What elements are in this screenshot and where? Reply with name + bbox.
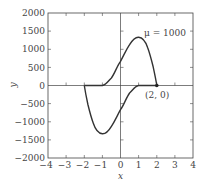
svg-text:−3: −3 — [58, 160, 72, 170]
limit-cycle-chart: 2000 1500 1000 500 0 −500 −1000 −1500 −2… — [0, 0, 205, 188]
svg-text:1000: 1000 — [22, 44, 45, 54]
svg-text:1500: 1500 — [22, 26, 45, 36]
svg-text:−500: −500 — [20, 99, 45, 109]
svg-text:−1000: −1000 — [15, 117, 46, 127]
svg-text:−2: −2 — [76, 160, 89, 170]
svg-text:2: 2 — [154, 160, 160, 170]
y-tick-labels: 2000 1500 1000 500 0 −500 −1000 −1500 −2… — [15, 8, 46, 163]
svg-text:0: 0 — [39, 81, 45, 91]
svg-text:−1: −1 — [94, 160, 107, 170]
svg-text:500: 500 — [28, 63, 45, 73]
svg-text:3: 3 — [172, 160, 178, 170]
mu-annotation: μ = 1000 — [144, 28, 186, 38]
svg-text:−4: −4 — [39, 160, 53, 170]
x-tick-labels: −4 −3 −2 −1 0 1 2 3 4 — [39, 160, 196, 170]
svg-text:0: 0 — [118, 160, 124, 170]
x-axis-label: x — [118, 171, 123, 181]
y-axis-label: y — [8, 82, 18, 89]
point-marker — [155, 84, 159, 88]
svg-text:2000: 2000 — [22, 8, 45, 18]
svg-text:−1500: −1500 — [15, 135, 46, 145]
svg-text:1: 1 — [136, 160, 142, 170]
svg-text:4: 4 — [190, 160, 196, 170]
point-annotation: (2, 0) — [145, 90, 169, 100]
